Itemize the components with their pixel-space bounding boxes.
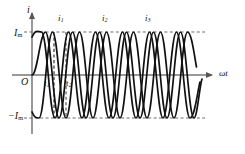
waveform-plot — [0, 0, 245, 154]
i3-sub: 3 — [148, 17, 151, 23]
t2-sub: 2 — [69, 82, 72, 88]
waveform-figure: i Im −Im O t1 t2 i1 i2 i3 ωt — [0, 0, 245, 154]
curve-label-i1: i1 — [58, 14, 64, 24]
origin-label: O — [21, 77, 28, 87]
y-axis-label: i — [27, 5, 30, 15]
curve-label-i3: i3 — [145, 14, 151, 24]
negative-peak-label: −Im — [8, 111, 23, 122]
time-marker-t1-label: t1 — [44, 79, 50, 89]
positive-peak-label-text: I — [14, 27, 17, 38]
t1-sub: 1 — [47, 82, 50, 88]
positive-peak-label: Im — [14, 28, 22, 39]
negative-peak-label-sub: m — [18, 114, 23, 121]
negative-peak-label-text: −I — [8, 110, 18, 121]
curve-label-i2: i2 — [102, 14, 108, 24]
i1-sub: 1 — [61, 17, 64, 23]
x-axis-label: ωt — [219, 69, 228, 78]
i2-sub: 2 — [105, 17, 108, 23]
time-marker-t2-label: t2 — [66, 79, 72, 89]
positive-peak-label-sub: m — [18, 31, 23, 38]
